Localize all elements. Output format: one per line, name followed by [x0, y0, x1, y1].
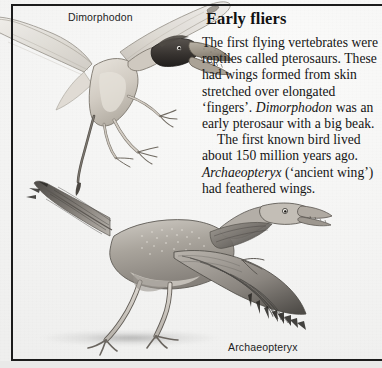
p2-genus-archaeopteryx: Archaeopteryx [202, 165, 282, 180]
frame-rule-left [11, 4, 13, 361]
footer-strip [0, 361, 382, 368]
figure-label-archaeopteryx: Archaeopteryx [228, 341, 298, 353]
page-plate: Early fliers The first flying vertebrate… [0, 0, 382, 368]
paragraph-2: The first known bird lived about 150 mil… [202, 132, 378, 197]
p1-genus-dimorphodon: Dimorphodon [256, 100, 332, 115]
page-title: Early fliers [206, 10, 378, 28]
p2-run-1: The first known bird lived about 150 mil… [202, 132, 361, 163]
figure-label-dimorphodon: Dimorphodon [68, 11, 133, 23]
frame-rule-top [11, 4, 382, 6]
article-text-column: Early fliers The first flying vertebrate… [202, 10, 378, 197]
paragraph-1: The first flying vertebrates were reptil… [202, 35, 378, 132]
figure-archaeopteryx [14, 180, 354, 358]
